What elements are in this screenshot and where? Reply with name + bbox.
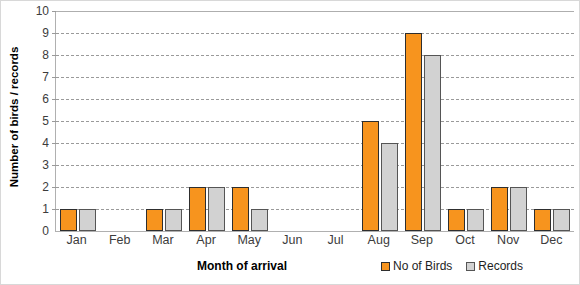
- y-axis-tick-label: 8: [42, 49, 49, 61]
- bar-group: [186, 11, 229, 231]
- bar: [467, 209, 484, 231]
- bar-group: [531, 11, 574, 231]
- chart-legend: No of BirdsRecords: [381, 259, 523, 273]
- bar-group: [445, 11, 488, 231]
- y-axis-title: Number of birds / records: [1, 1, 27, 233]
- bar: [189, 187, 206, 231]
- x-axis-tick-label: Jul: [314, 233, 357, 247]
- y-axis-tick-label: 7: [42, 71, 49, 83]
- x-axis-tick-label: Sep: [400, 233, 443, 247]
- bar-group: [315, 11, 358, 231]
- y-axis-tick-label: 6: [42, 93, 49, 105]
- y-axis-tick-label: 1: [42, 203, 49, 215]
- bar: [405, 33, 422, 231]
- y-axis-tick-labels: 012345678910: [27, 5, 53, 231]
- legend-item[interactable]: No of Birds: [381, 259, 452, 273]
- bar-group: [272, 11, 315, 231]
- bar: [534, 209, 551, 231]
- bar: [448, 209, 465, 231]
- bar-group: [142, 11, 185, 231]
- bars-layer: [56, 11, 574, 231]
- bar: [60, 209, 77, 231]
- bar-group: [358, 11, 401, 231]
- y-axis-tick-label: 0: [42, 225, 49, 237]
- bar: [362, 121, 379, 231]
- legend-swatch-icon: [466, 262, 475, 271]
- x-axis-tick-label: Oct: [444, 233, 487, 247]
- bar: [381, 143, 398, 231]
- bar-group: [229, 11, 272, 231]
- bar-group: [99, 11, 142, 231]
- y-axis-tick-label: 3: [42, 159, 49, 171]
- y-axis-tick-label: 2: [42, 181, 49, 193]
- x-axis-tick-label: May: [228, 233, 271, 247]
- plot-area: [55, 11, 574, 232]
- x-axis-title: Month of arrival: [197, 259, 287, 273]
- bar: [424, 55, 441, 231]
- y-axis-tick-label: 5: [42, 115, 49, 127]
- bar: [165, 209, 182, 231]
- x-axis-tick-label: Feb: [98, 233, 141, 247]
- x-axis-tick-label: Jun: [271, 233, 314, 247]
- bar: [208, 187, 225, 231]
- bar: [510, 187, 527, 231]
- chart-footer: Month of arrival No of BirdsRecords: [1, 257, 580, 281]
- bar-group: [401, 11, 444, 231]
- bar: [491, 187, 508, 231]
- y-axis-title-label: Number of birds / records: [8, 47, 20, 188]
- bar-group: [56, 11, 99, 231]
- bar: [146, 209, 163, 231]
- bar: [553, 209, 570, 231]
- x-axis-tick-label: Aug: [357, 233, 400, 247]
- x-axis-tick-label: Mar: [141, 233, 184, 247]
- legend-item[interactable]: Records: [466, 259, 523, 273]
- bar: [232, 187, 249, 231]
- legend-swatch-icon: [381, 262, 390, 271]
- bar: [251, 209, 268, 231]
- x-axis-tick-label: Nov: [487, 233, 530, 247]
- legend-label: No of Birds: [393, 259, 452, 273]
- x-axis-tick-labels: JanFebMarAprMayJunJulAugSepOctNovDec: [55, 233, 573, 253]
- y-axis-tick-label: 9: [42, 27, 49, 39]
- bar-chart: Number of birds / records 012345678910 J…: [0, 0, 580, 285]
- legend-label: Records: [478, 259, 523, 273]
- y-axis-tick-label: 10: [36, 5, 49, 17]
- bar-group: [488, 11, 531, 231]
- x-axis-tick-label: Dec: [530, 233, 573, 247]
- bar: [79, 209, 96, 231]
- x-axis-tick-label: Jan: [55, 233, 98, 247]
- x-axis-tick-label: Apr: [185, 233, 228, 247]
- y-axis-tick-label: 4: [42, 137, 49, 149]
